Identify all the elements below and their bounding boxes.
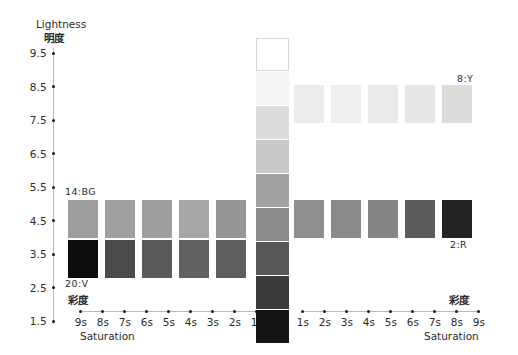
y-tick-dot	[52, 286, 55, 289]
swatch-center-l95	[256, 38, 289, 71]
x-tick-label-left: 4s	[185, 316, 198, 328]
x-tick-label-right: 8s	[451, 316, 464, 328]
x-tick-label-left: 8s	[97, 316, 110, 328]
swatch-right-l80-3s	[368, 85, 398, 123]
x-tick-dot-right	[455, 310, 458, 313]
swatch-left-l45-8s	[105, 200, 135, 238]
x-tick-dot-left	[145, 310, 148, 313]
y-tick-label: 4.5	[21, 215, 47, 227]
swatch-left-l45-9s	[68, 200, 98, 238]
x-tick-dot-right	[345, 310, 348, 313]
swatch-right-l80-1s	[294, 85, 324, 123]
x-tick-label-right: 7s	[429, 316, 442, 328]
x-tick-dot-left	[233, 310, 236, 313]
x-tick-label-left: 3s	[207, 316, 220, 328]
x-tick-label-right: 2s	[319, 316, 332, 328]
x-tick-dot-right	[411, 310, 414, 313]
y-axis-title-jp: 明度	[44, 30, 65, 45]
x-tick-label-left: 5s	[163, 316, 176, 328]
y-tick-dot	[52, 52, 55, 55]
x-tick-dot-right	[477, 310, 480, 313]
x-tick-dot-left	[79, 310, 82, 313]
swatch-left-l35-9s	[68, 240, 98, 278]
x-tick-dot-right	[323, 310, 326, 313]
y-tick-label: 9.5	[21, 47, 47, 59]
swatch-left-l45-5s	[216, 200, 246, 238]
y-tick-dot	[52, 320, 55, 323]
x-tick-dot-left	[101, 310, 104, 313]
x-axis-left-title-jp: 彩度	[68, 292, 89, 307]
y-tick-label: 8.5	[21, 81, 47, 93]
x-axis-left-title-en: Saturation	[80, 330, 135, 342]
annotation-20-v: 20:V	[65, 278, 88, 289]
swatch-right-l80-5s	[442, 85, 472, 123]
swatch-right-l80-4s	[405, 85, 435, 123]
x-tick-label-left: 6s	[141, 316, 154, 328]
swatch-center-l15	[256, 310, 289, 343]
swatch-left-l35-6s	[179, 240, 209, 278]
swatch-right-l80-2s	[331, 85, 361, 123]
y-axis-title-en: Lightness	[36, 18, 86, 30]
x-tick-label-right: 4s	[363, 316, 376, 328]
swatch-center-l55	[256, 174, 289, 207]
annotation-8-y: 8:Y	[457, 73, 473, 84]
x-tick-label-right: 3s	[341, 316, 354, 328]
color-chart: Lightness 明度 9.5 8.5 7.5 6.5 5.5 4.5 3.5…	[0, 0, 518, 355]
annotation-14-bg: 14:BG	[65, 186, 96, 197]
x-tick-dot-left	[211, 310, 214, 313]
swatch-center-l75	[256, 106, 289, 139]
y-tick-dot	[52, 119, 55, 122]
x-tick-dot-right	[433, 310, 436, 313]
y-tick-label: 5.5	[21, 181, 47, 193]
y-tick-label: 6.5	[21, 148, 47, 160]
x-tick-dot-right	[367, 310, 370, 313]
y-tick-dot	[52, 85, 55, 88]
x-tick-dot-right	[301, 310, 304, 313]
swatch-center-l45	[256, 208, 289, 241]
swatch-left-l35-5s	[216, 240, 246, 278]
y-tick-label: 2.5	[21, 282, 47, 294]
x-tick-dot-left	[123, 310, 126, 313]
x-tick-label-right: 6s	[407, 316, 420, 328]
x-tick-dot-left	[167, 310, 170, 313]
x-tick-label-right: 9s	[473, 316, 486, 328]
y-tick-label: 1.5	[21, 315, 47, 327]
annotation-2-r: 2:R	[450, 239, 467, 250]
y-tick-dot	[52, 186, 55, 189]
swatch-right-l45-1s	[294, 200, 324, 238]
x-tick-dot-left	[189, 310, 192, 313]
swatch-right-l45-5s	[442, 200, 472, 238]
swatch-right-l45-4s	[405, 200, 435, 238]
swatch-right-l45-2s	[331, 200, 361, 238]
swatch-center-l65	[256, 140, 289, 173]
y-tick-label: 3.5	[21, 248, 47, 260]
x-tick-label-right: 1s	[297, 316, 310, 328]
swatch-center-l85	[256, 72, 289, 105]
swatch-center-l35	[256, 242, 289, 275]
swatch-center-l25	[256, 276, 289, 309]
swatch-left-l45-6s	[179, 200, 209, 238]
swatch-left-l45-7s	[142, 200, 172, 238]
x-tick-label-left: 7s	[119, 316, 132, 328]
x-tick-label-left: 9s	[75, 316, 88, 328]
y-tick-dot	[52, 253, 55, 256]
swatch-right-l45-3s	[368, 200, 398, 238]
x-axis-right-title-en: Saturation	[424, 330, 479, 342]
x-tick-label-left: 2s	[229, 316, 242, 328]
x-tick-label-right: 5s	[385, 316, 398, 328]
y-tick-label: 7.5	[21, 114, 47, 126]
swatch-left-l35-7s	[142, 240, 172, 278]
swatch-left-l35-8s	[105, 240, 135, 278]
y-tick-dot	[52, 152, 55, 155]
x-tick-dot-right	[389, 310, 392, 313]
x-axis-right-title-jp: 彩度	[449, 292, 470, 307]
y-tick-dot	[52, 219, 55, 222]
